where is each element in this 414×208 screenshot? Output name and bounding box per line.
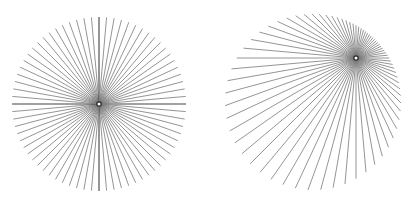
radial-line: [231, 58, 356, 69]
radial-line: [321, 58, 356, 190]
radial-lines-figure: [0, 0, 414, 208]
centered-radial-lines-panel: [12, 17, 186, 191]
focus-point-marker: [354, 56, 358, 60]
radial-line: [227, 58, 356, 118]
radial-line: [345, 58, 356, 184]
focus-point-marker: [97, 102, 101, 106]
radial-line: [225, 58, 356, 93]
radial-line: [295, 58, 356, 188]
offset-radial-lines-panel: [225, 14, 401, 190]
